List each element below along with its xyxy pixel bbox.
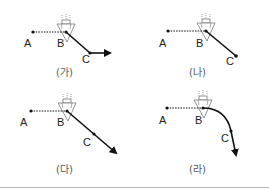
caption-ga: (가)	[56, 68, 73, 78]
point-c	[229, 129, 232, 132]
divider	[0, 187, 269, 188]
point-a	[29, 109, 32, 112]
panel-da	[29, 93, 116, 153]
path-b-c	[206, 31, 236, 56]
path-b-c	[66, 32, 90, 53]
point-c	[234, 54, 238, 58]
label-c: C	[83, 137, 91, 148]
label-a: A	[24, 38, 31, 49]
label-b: B	[57, 38, 64, 49]
label-a: A	[159, 115, 166, 126]
diagram-canvas	[0, 0, 269, 193]
label-c: C	[226, 56, 234, 67]
panel-ga	[31, 14, 110, 55]
arrow-b-through-c	[67, 111, 116, 153]
point-c	[92, 132, 95, 135]
label-b: B	[196, 38, 203, 49]
label-a: A	[20, 117, 27, 128]
point-a	[31, 30, 34, 33]
panel-na	[166, 13, 237, 58]
point-a	[165, 106, 168, 109]
caption-na: (나)	[189, 68, 206, 78]
caption-ra: (라)	[189, 165, 206, 175]
label-b: B	[57, 117, 64, 128]
point-a	[166, 29, 169, 32]
label-b: B	[195, 115, 202, 126]
label-c: C	[221, 133, 229, 144]
label-c: C	[82, 54, 90, 65]
label-a: A	[159, 38, 166, 49]
caption-da: (다)	[56, 165, 73, 175]
